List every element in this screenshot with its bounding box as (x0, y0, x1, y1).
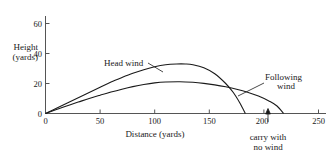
x-tick-label-50: 50 (96, 116, 105, 126)
x-tick-label-250: 250 (312, 116, 325, 126)
y-tick-label-20: 20 (34, 79, 43, 89)
carry-no-wind-arrow-head (266, 109, 271, 115)
series-label-head-wind: Head wind (104, 58, 144, 68)
x-tick-label-150: 150 (203, 116, 216, 126)
x-axis-title: Distance (yards) (125, 129, 184, 139)
golf-trajectory-chart: 0 20 40 60 Height (yards) 0 50 100 150 2… (0, 0, 333, 156)
series-head-wind-curve (46, 64, 246, 114)
carry-no-wind-label-line1: carry with (250, 132, 287, 142)
chart-svg: 0 20 40 60 Height (yards) 0 50 100 150 2… (0, 0, 333, 156)
series-label-following-wind-line2: wind (277, 81, 296, 91)
series-following-wind-curve (46, 82, 284, 114)
x-tick-label-200: 200 (256, 116, 269, 126)
leader-line-following-wind (238, 83, 264, 96)
y-tick-label-60: 60 (34, 19, 43, 29)
y-axis-title-line1: Height (14, 42, 39, 52)
y-tick-label-0: 0 (38, 109, 42, 119)
x-tick-label-0: 0 (43, 116, 47, 126)
carry-no-wind-label-line2: no wind (253, 142, 283, 152)
y-axis-title-line2: (yards) (13, 52, 39, 62)
x-tick-label-100: 100 (148, 116, 161, 126)
